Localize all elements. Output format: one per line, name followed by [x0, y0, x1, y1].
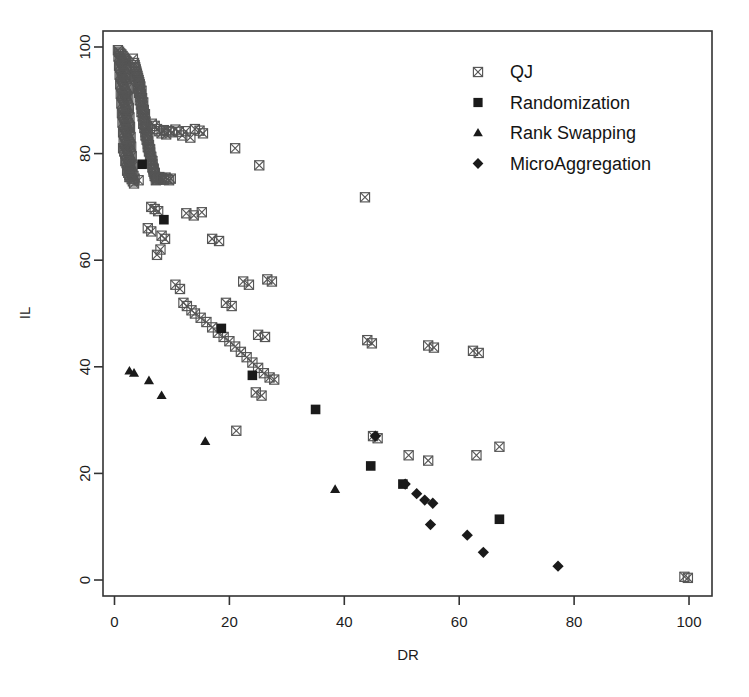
x-tick-label: 0 — [110, 613, 118, 630]
legend-marker-filled-square — [473, 98, 482, 107]
legend-label-microaggregation: MicroAggregation — [510, 154, 651, 174]
y-tick-label: 0 — [77, 576, 94, 584]
x-tick-label: 60 — [451, 613, 468, 630]
data-point-filled-square — [473, 98, 482, 107]
data-point-filled-square — [137, 159, 147, 169]
y-axis-label: IL — [16, 307, 33, 320]
y-tick-label: 60 — [77, 252, 94, 269]
x-axis-label: DR — [397, 646, 419, 663]
data-point-filled-square — [159, 215, 169, 225]
x-tick-label: 20 — [221, 613, 238, 630]
x-tick-label: 100 — [677, 613, 702, 630]
data-point-filled-square — [217, 324, 227, 334]
legend-label-randomization: Randomization — [510, 93, 630, 113]
legend-label-qj: QJ — [510, 62, 533, 82]
plot-canvas: 020406080100 020406080100 QJRandomizatio… — [0, 0, 749, 697]
legend-label-rank-swapping: Rank Swapping — [510, 123, 636, 143]
data-point-filled-square — [248, 371, 258, 381]
y-tick-label: 20 — [77, 465, 94, 482]
y-tick-label: 80 — [77, 145, 94, 162]
y-tick-label: 100 — [77, 34, 94, 59]
x-tick-label: 40 — [336, 613, 353, 630]
x-tick-label: 80 — [566, 613, 583, 630]
scatter-plot-figure: 020406080100 020406080100 QJRandomizatio… — [0, 0, 749, 697]
y-tick-label: 40 — [77, 358, 94, 375]
data-point-filled-square — [311, 405, 321, 415]
data-point-filled-square — [495, 514, 505, 524]
data-point-filled-square — [366, 461, 376, 471]
